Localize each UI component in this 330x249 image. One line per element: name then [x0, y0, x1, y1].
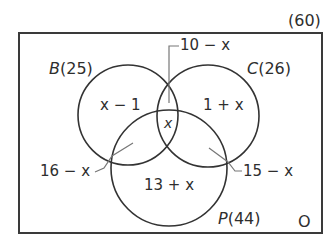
region-b-only: x − 1 — [100, 98, 141, 113]
universal-total-label: (60) — [288, 13, 321, 29]
region-all-three: x — [164, 116, 172, 130]
set-b-count: (25) — [60, 59, 93, 78]
region-p-only: 13 + x — [144, 178, 194, 193]
region-b-p-only: 16 − x — [40, 164, 90, 179]
region-c-p-only: 15 − x — [243, 164, 293, 179]
set-c-circle — [157, 65, 259, 167]
set-b-label: B(25) — [49, 61, 93, 77]
set-c-name: C — [247, 59, 258, 78]
set-p-name: P — [218, 209, 228, 228]
set-b-name: B — [49, 59, 60, 78]
region-c-only: 1 + x — [203, 98, 244, 113]
region-b-c-only: 10 − x — [180, 38, 230, 53]
set-p-count: (44) — [228, 209, 261, 228]
set-c-count: (26) — [258, 59, 291, 78]
set-c-label: C(26) — [247, 61, 291, 77]
leader-line-c-p — [209, 148, 242, 171]
set-b-circle — [78, 65, 178, 165]
set-p-label: P(44) — [218, 211, 261, 227]
outside-label: O — [298, 214, 311, 230]
